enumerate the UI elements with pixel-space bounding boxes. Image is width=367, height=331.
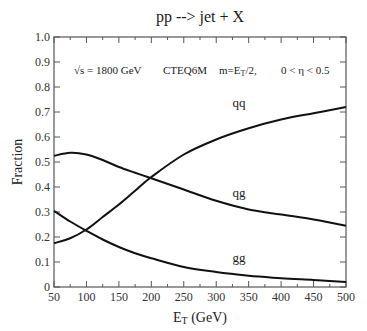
y-tick-label: 0 bbox=[44, 280, 50, 294]
x-tick-label: 150 bbox=[110, 290, 128, 304]
y-tick-label: 0.1 bbox=[35, 255, 50, 269]
y-tick-label: 0.6 bbox=[35, 130, 50, 144]
x-tick-label: 100 bbox=[77, 290, 95, 304]
y-axis-label: Fraction bbox=[10, 139, 25, 186]
annotation-eta: 0 < η < 0.5 bbox=[281, 64, 330, 76]
series-line-qg bbox=[54, 153, 346, 226]
x-tick-label: 250 bbox=[175, 290, 193, 304]
y-tick-label: 0.8 bbox=[35, 80, 50, 94]
series-label-qg: qg bbox=[232, 185, 246, 200]
chart-title: pp --> jet + X bbox=[156, 8, 245, 26]
chart: pp --> jet + X √s = 1800 GeV CTEQ6M m=ET… bbox=[0, 0, 367, 331]
x-axis-label-main: E bbox=[173, 310, 182, 325]
x-axis: 50100150200250300350400450500 bbox=[48, 37, 355, 304]
series-line-qq bbox=[54, 107, 346, 243]
x-tick-label: 350 bbox=[240, 290, 258, 304]
y-tick-label: 0.3 bbox=[35, 205, 50, 219]
y-tick-label: 0.4 bbox=[35, 180, 50, 194]
x-axis-label: ET (GeV) bbox=[173, 310, 227, 326]
y-tick-label: 0.2 bbox=[35, 230, 50, 244]
annotation-scale-tail: /2, bbox=[245, 64, 257, 76]
series-group: qqqggg bbox=[54, 95, 346, 282]
x-tick-label: 300 bbox=[207, 290, 225, 304]
y-tick-label: 0.5 bbox=[35, 155, 50, 169]
x-tick-label: 200 bbox=[142, 290, 160, 304]
annotation-scale-main: m=E bbox=[219, 64, 241, 76]
y-tick-label: 0.7 bbox=[35, 105, 50, 119]
x-tick-label: 400 bbox=[272, 290, 290, 304]
chart-annotation: √s = 1800 GeV CTEQ6M m=ET/2, 0 < η < 0.5 bbox=[74, 64, 330, 78]
y-tick-label: 1.0 bbox=[35, 30, 50, 44]
annotation-sqrt-s: √s = 1800 GeV bbox=[74, 64, 142, 76]
series-label-qq: qq bbox=[232, 95, 246, 110]
y-tick-label: 0.9 bbox=[35, 55, 50, 69]
annotation-scale: m=ET/2, bbox=[219, 64, 257, 78]
x-tick-label: 450 bbox=[305, 290, 323, 304]
annotation-pdf: CTEQ6M bbox=[163, 64, 207, 76]
series-label-gg: gg bbox=[232, 250, 246, 265]
x-axis-label-tail: (GeV) bbox=[188, 310, 228, 326]
x-tick-label: 500 bbox=[337, 290, 355, 304]
